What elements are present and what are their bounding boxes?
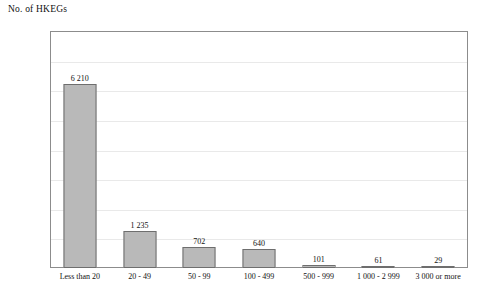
bar[interactable]: [242, 249, 275, 268]
x-axis-tick-label: 1 000 - 2 999: [357, 272, 400, 281]
bar-group[interactable]: 101: [289, 31, 349, 268]
bar-value-label: 6 210: [71, 74, 89, 83]
bar-group[interactable]: 6 210: [50, 31, 110, 268]
bars-layer: 6 2101 2357026401016129: [50, 31, 468, 268]
x-axis-tick-label: 100 - 499: [244, 272, 275, 281]
x-axis-tick-label: 3 000 or more: [416, 272, 461, 281]
bar-chart: No. of HKEGs 01 0002 0003 0004 0005 0006…: [0, 0, 480, 294]
x-axis-tick-label: 20 - 49: [128, 272, 151, 281]
bar-group[interactable]: 61: [349, 31, 409, 268]
bar-value-label: 101: [313, 255, 325, 264]
bar-group[interactable]: 640: [229, 31, 289, 268]
bar[interactable]: [183, 247, 216, 268]
bar-value-label: 29: [434, 256, 442, 265]
bar-value-label: 61: [374, 256, 382, 265]
x-axis-tick-label: 50 - 99: [188, 272, 211, 281]
bar-value-label: 640: [253, 239, 265, 248]
bar-value-label: 1 235: [131, 221, 149, 230]
y-axis: 01 0002 0003 0004 0005 0006 0007 0008 00…: [0, 31, 50, 268]
bar[interactable]: [302, 265, 335, 268]
bar[interactable]: [362, 266, 395, 268]
chart-axis-title: No. of HKEGs: [8, 4, 67, 14]
bar-group[interactable]: 29: [408, 31, 468, 268]
bar[interactable]: [422, 266, 455, 268]
x-axis: Less than 2020 - 4950 - 99100 - 499500 -…: [50, 270, 468, 290]
bar[interactable]: [123, 231, 156, 268]
x-axis-tick-label: 500 - 999: [303, 272, 334, 281]
x-axis-tick-label: Less than 20: [60, 272, 100, 281]
bar-group[interactable]: 702: [169, 31, 229, 268]
bar-group[interactable]: 1 235: [110, 31, 170, 268]
bar[interactable]: [63, 84, 96, 268]
bar-value-label: 702: [193, 237, 205, 246]
